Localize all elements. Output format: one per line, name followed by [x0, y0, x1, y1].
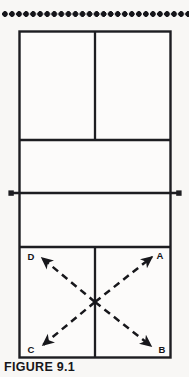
net-post-left-icon: [8, 190, 13, 195]
figure-container: D A C B FIGURE 9.1: [0, 0, 189, 377]
net-post-right-icon: [176, 190, 181, 195]
arrow-label-c: C: [28, 344, 35, 355]
figure-caption-label: FIGURE 9.1: [4, 361, 75, 374]
arrow-label-a: A: [157, 250, 164, 261]
court-diagram: D A C B: [0, 0, 189, 377]
arrow-label-b: B: [159, 344, 166, 355]
figure-caption: FIGURE 9.1: [4, 358, 189, 377]
caption-dot-leader: [80, 362, 189, 374]
arrow-label-d: D: [28, 251, 35, 262]
